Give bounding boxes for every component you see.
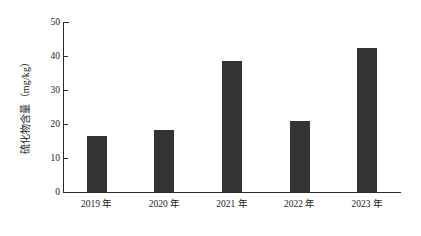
bar[interactable] xyxy=(154,130,174,192)
y-axis-tick-label: 30 xyxy=(36,85,60,95)
bar[interactable] xyxy=(290,121,310,192)
y-axis-tick-label: 0 xyxy=(36,187,60,197)
y-axis-tick-label: 20 xyxy=(36,119,60,129)
y-axis-tick-mark xyxy=(64,124,68,125)
x-axis-tick-labels: 2019 年2020 年2021 年2022 年2023 年 xyxy=(63,198,401,218)
y-axis-title: 硫化物含量（mg/kg） xyxy=(14,18,36,193)
bars-layer xyxy=(63,22,401,192)
y-axis-tick-mark xyxy=(64,56,68,57)
y-axis-tick-mark xyxy=(64,90,68,91)
y-axis-tick-mark xyxy=(64,192,69,193)
y-axis-tick-mark xyxy=(64,158,68,159)
y-axis-tick-labels: 01020304050 xyxy=(36,14,60,198)
x-axis-line xyxy=(63,192,401,193)
x-axis-tick-label: 2020 年 xyxy=(131,198,199,210)
bar[interactable] xyxy=(222,61,242,192)
bar[interactable] xyxy=(87,136,107,192)
y-axis-tick-label: 50 xyxy=(36,17,60,27)
y-axis-tick-label: 40 xyxy=(36,51,60,61)
x-axis-tick-label: 2022 年 xyxy=(266,198,334,210)
bar[interactable] xyxy=(357,48,377,192)
y-axis-title-text: 硫化物含量（mg/kg） xyxy=(18,57,33,155)
x-axis-tick-label: 2019 年 xyxy=(63,198,131,210)
x-axis-tick-label: 2023 年 xyxy=(333,198,401,210)
plot-area xyxy=(63,22,401,192)
y-axis-tick-mark xyxy=(64,22,69,23)
x-axis-tick-label: 2021 年 xyxy=(198,198,266,210)
bar-chart-figure: 硫化物含量（mg/kg） 01020304050 2019 年2020 年202… xyxy=(0,0,421,236)
y-axis-tick-label: 10 xyxy=(36,153,60,163)
